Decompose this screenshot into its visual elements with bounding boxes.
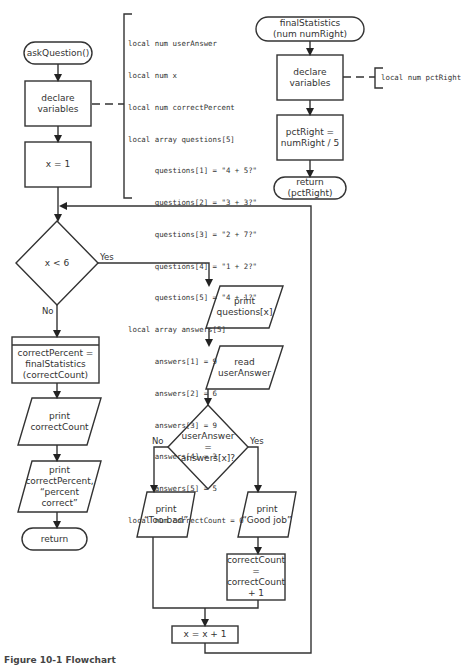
declaration-line: local num userAnswer <box>128 39 257 50</box>
loop-condition-label: x < 6 <box>16 221 98 305</box>
declare-label: declare variables <box>25 81 91 126</box>
declarations-block: local num userAnswer local num x local n… <box>128 18 257 537</box>
declaration-line: answers[4] = 3 <box>128 452 257 463</box>
increment-count-label: correctCount = correctCount + 1 <box>227 554 285 600</box>
print-percent-label: print correctPercent, “percent correct” <box>18 461 101 512</box>
stats-declaration: local num pctRight <box>381 73 461 84</box>
declaration-line: questions[1] = "4 + 5?" <box>128 166 257 177</box>
declaration-line: local num x <box>128 71 257 82</box>
declaration-line: answers[2] = 6 <box>128 389 257 400</box>
loop-yes-label: Yes <box>100 252 114 262</box>
declaration-line: questions[2] = "3 + 3?" <box>128 198 257 209</box>
call-label: correctPercent = finalStatistics (correc… <box>12 345 99 383</box>
declaration-line: local array questions[5] <box>128 135 257 146</box>
declaration-line: local num correctCount = 0 <box>128 516 257 527</box>
return-label: return <box>22 528 87 550</box>
stats-declare-label: declare variables <box>277 55 343 100</box>
stats-compute-label: pctRight = numRight / 5 <box>277 115 343 160</box>
figure-caption: Figure 10-1 Flowchart <box>4 655 116 665</box>
declaration-line: local array answers[5] <box>128 325 257 336</box>
stats-start-label: finalStatistics (num numRight) <box>256 17 364 41</box>
declaration-line: questions[5] = "4 + 1?" <box>128 293 257 304</box>
stats-return-label: return (pctRight) <box>274 177 346 199</box>
declaration-line: questions[3] = "2 + 7?" <box>128 230 257 241</box>
loop-no-label: No <box>42 306 54 316</box>
increment-x-label: x = x + 1 <box>172 626 238 643</box>
declaration-line: answers[5] = 5 <box>128 484 257 495</box>
init-label: x = 1 <box>25 142 91 187</box>
declaration-line: local num correctPercent <box>128 103 257 114</box>
declaration-line: answers[3] = 9 <box>128 421 257 432</box>
declaration-line: answers[1] = 9 <box>128 357 257 368</box>
start-label: askQuestion() <box>24 42 92 64</box>
print-count-label: print correctCount <box>18 398 101 445</box>
declaration-line: questions[4] = "1 + 2?" <box>128 262 257 273</box>
